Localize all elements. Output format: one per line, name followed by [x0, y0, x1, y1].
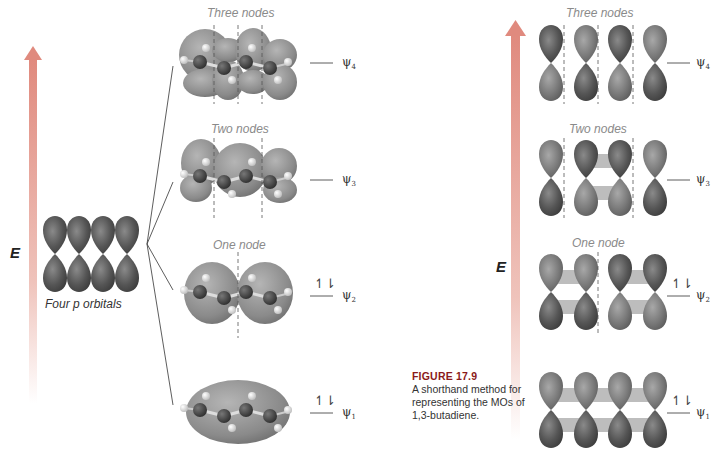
psi4-label-right: ψ4: [696, 55, 710, 71]
node-label-psi3-right: Two nodes: [569, 122, 627, 136]
psi4-label-left: ψ4: [342, 55, 356, 71]
four-p-orbitals: [43, 216, 139, 292]
mo-3d-psi3: [180, 138, 297, 218]
electron-pair-psi1-left: ↿⇂: [314, 393, 336, 408]
electron-pair-psi2-left: ↿⇂: [314, 276, 336, 291]
energy-arrow-left: [24, 46, 42, 403]
psi2-label-right: ψ2: [696, 288, 710, 304]
node-label-psi2-left: One node: [213, 238, 266, 252]
electron-pair-psi1-right: ↿⇂: [671, 393, 693, 408]
figure-number: FIGURE 17.9: [412, 370, 532, 383]
node-label-psi4-right: Three nodes: [566, 6, 633, 20]
mo-3d-psi4: [179, 25, 297, 104]
node-label-psi3-left: Two nodes: [211, 122, 269, 136]
energy-axis-label-left: E: [10, 244, 20, 261]
correlation-lines: [147, 66, 173, 405]
p-orbitals-label: Four p orbitals: [45, 297, 122, 311]
figure-caption: FIGURE 17.9 A shorthand method for repre…: [412, 370, 532, 422]
mo-shorthand-psi1: [539, 372, 667, 448]
node-label-psi4-left: Three nodes: [207, 6, 274, 20]
psi1-label-left: ψ1: [342, 405, 356, 421]
psi3-label-left: ψ3: [342, 172, 356, 188]
psi3-label-right: ψ3: [696, 172, 710, 188]
mo-3d-psi2: [180, 252, 293, 338]
psi2-label-left: ψ2: [342, 288, 356, 304]
mo-shorthand-psi4: [539, 25, 667, 104]
node-label-psi2-right: One node: [572, 236, 625, 250]
mo-shorthand-psi2: [539, 252, 667, 336]
mo-3d-psi1: [180, 380, 292, 444]
figure-caption-text: A shorthand method for representing the …: [412, 383, 532, 422]
electron-pair-psi2-right: ↿⇂: [671, 276, 693, 291]
psi1-label-right: ψ1: [696, 405, 710, 421]
energy-axis-label-right: E: [496, 258, 506, 275]
mo-shorthand-psi3: [539, 138, 667, 218]
diagram-canvas: [0, 0, 721, 458]
